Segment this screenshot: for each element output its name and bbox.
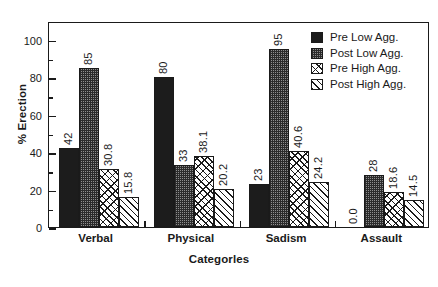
y-axis-tick-label: 60 [12,111,42,121]
y-axis-minor-tick-mark [49,60,53,61]
bar-verbal-pre-high-agg [99,169,119,227]
bar-assault-post-high-agg [404,200,424,227]
legend-item-pre-low-agg: Pre Low Agg. [311,31,406,44]
bar-verbal-pre-low-agg [59,148,79,227]
plot-area: Pre Low Agg. Post Low Agg. Pre High Agg.… [48,22,429,228]
y-axis-tick-labels: 020406080100 [10,0,42,287]
y-axis-tick-label: 20 [12,186,42,196]
bar-value-label: 42 [63,133,74,146]
y-axis-minor-tick-mark [49,172,53,173]
y-axis-tick-label: 80 [12,73,42,83]
bar-sadism-pre-high-agg [289,151,309,227]
bar-value-label: 0.0 [348,208,359,224]
x-axis-category-verbal: Verbal [48,232,143,244]
bar-value-label: 28 [368,159,379,172]
y-axis-tick-mark [49,41,56,42]
bar-chart-figure: % Erection 020406080100 Pre Low Agg. Pos… [0,0,438,287]
y-axis-tick-label: 40 [12,148,42,158]
legend-label: Post High Agg. [330,79,406,90]
y-axis-tick-mark [49,153,56,154]
x-axis-tick-mark [144,221,145,227]
x-axis-category-assault: Assault [334,232,429,244]
bar-value-label: 38.1 [198,130,209,152]
y-axis-minor-tick-mark [49,135,53,136]
bar-physical-pre-high-agg [194,156,214,227]
y-axis-tick-mark [49,228,56,229]
bar-value-label: 85 [83,52,94,65]
bar-value-label: 40.6 [293,126,304,148]
bar-value-label: 14.5 [408,175,419,197]
y-axis-tick-mark [49,191,56,192]
x-axis-title: Categorles [0,253,438,265]
bar-physical-post-high-agg [214,189,234,227]
y-axis-minor-tick-mark [49,210,53,211]
x-axis-category-sadism: Sadism [239,232,334,244]
y-axis-tick-label: 100 [12,36,42,46]
bar-verbal-post-high-agg [119,197,139,227]
legend-swatch-solid-icon [311,32,323,43]
legend-swatch-stipple-icon [311,48,323,59]
bar-physical-post-low-agg [174,165,194,227]
bar-value-label: 20.2 [218,164,229,186]
legend-item-post-high-agg: Post High Agg. [311,78,406,91]
legend-label: Pre Low Agg. [330,32,398,43]
legend: Pre Low Agg. Post Low Agg. Pre High Agg.… [311,31,406,91]
y-axis-minor-tick-mark [49,97,53,98]
x-axis-tick-mark [240,221,241,227]
legend-label: Post Low Agg. [330,48,404,59]
bar-physical-pre-low-agg [154,77,174,227]
figure-caption-cropped [0,279,438,287]
bar-value-label: 18.6 [388,167,399,189]
bar-assault-pre-high-agg [384,192,404,227]
bar-value-label: 80 [158,62,169,75]
y-axis-tick-label: 0 [12,223,42,233]
legend-label: Pre High Agg. [330,63,401,74]
bar-value-label: 23 [253,168,264,181]
x-axis-tick-mark [335,221,336,227]
bar-value-label: 33 [178,150,189,163]
bar-value-label: 24.2 [313,156,324,178]
bar-value-label: 15.8 [123,172,134,194]
legend-swatch-crosshatch-icon [311,63,323,74]
x-axis-category-physical: Physical [143,232,238,244]
bar-assault-post-low-agg [364,175,384,227]
bar-verbal-post-low-agg [79,68,99,227]
bar-value-label: 95 [273,33,284,46]
bar-value-label: 30.8 [103,144,114,166]
bar-sadism-post-low-agg [269,49,289,227]
legend-item-post-low-agg: Post Low Agg. [311,47,406,60]
y-axis-tick-mark [49,78,56,79]
legend-item-pre-high-agg: Pre High Agg. [311,62,406,75]
y-axis-tick-mark [49,116,56,117]
bar-sadism-pre-low-agg [249,184,269,227]
legend-swatch-diagonal-icon [311,79,323,90]
bar-sadism-post-high-agg [309,182,329,227]
